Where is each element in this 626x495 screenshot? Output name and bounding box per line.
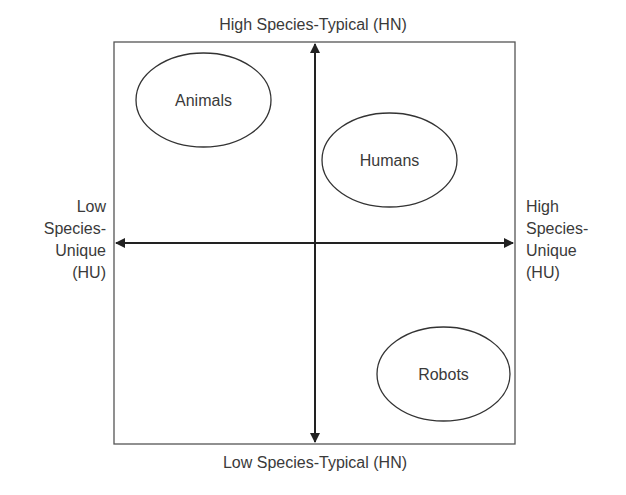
- animals-label: Animals: [175, 92, 232, 109]
- axis-label-left-line: Low: [10, 196, 106, 218]
- axis-label-right-line: Unique: [526, 240, 626, 262]
- quadrant-diagram: Animals Humans Robots High Species-Typic…: [0, 0, 626, 495]
- humans-label: Humans: [360, 152, 420, 169]
- axis-label-bottom: Low Species-Typical (HN): [0, 452, 626, 474]
- robots-label: Robots: [418, 366, 469, 383]
- axis-label-right-line: High: [526, 196, 626, 218]
- axis-label-right-line: (HU): [526, 262, 626, 284]
- axis-label-top: High Species-Typical (HN): [0, 14, 626, 36]
- axis-label-left-line: Unique: [10, 240, 106, 262]
- axis-label-right: High Species- Unique (HU): [526, 196, 626, 284]
- axis-label-left-line: (HU): [10, 262, 106, 284]
- axis-label-left: Low Species- Unique (HU): [10, 196, 106, 284]
- axis-label-right-line: Species-: [526, 218, 626, 240]
- axis-label-left-line: Species-: [10, 218, 106, 240]
